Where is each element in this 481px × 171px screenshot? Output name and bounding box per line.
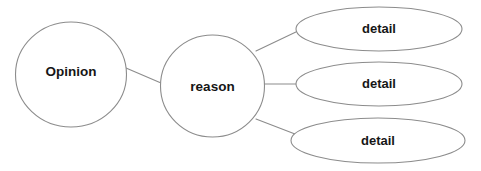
node-detail-3[interactable]: detail — [291, 118, 465, 163]
connector-reason-to-detail-3 — [256, 119, 295, 134]
opinion-label: Opinion — [46, 64, 97, 79]
connector-opinion-to-reason — [126, 68, 161, 83]
detail-3-label: detail — [361, 133, 395, 148]
node-detail-1[interactable]: detail — [296, 7, 462, 51]
node-reason[interactable]: reason — [161, 35, 265, 137]
connector-reason-to-detail-1 — [256, 31, 298, 51]
node-opinion[interactable]: Opinion — [16, 22, 127, 127]
concept-map-diagram: detail detail detail reason Opinion — [0, 0, 481, 171]
diagram-canvas: detail detail detail reason Opinion — [0, 0, 481, 171]
node-detail-2[interactable]: detail — [296, 62, 462, 106]
detail-2-label: detail — [362, 76, 396, 91]
reason-label: reason — [190, 79, 234, 94]
detail-1-label: detail — [362, 21, 396, 36]
